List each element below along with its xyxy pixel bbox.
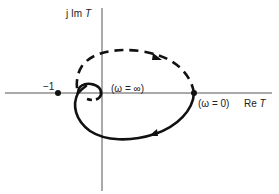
omega-zero-label: (ω = 0): [198, 99, 229, 109]
imag-label-prefix: j Im: [66, 8, 85, 19]
imag-label-var: T: [85, 8, 91, 19]
critical-point-label: −1: [43, 82, 54, 92]
omega-zero-marker: [191, 90, 197, 96]
nyquist-diagram: [0, 0, 279, 194]
dashed-loop-segment: [87, 95, 101, 100]
real-label-prefix: Re: [244, 98, 260, 109]
critical-point-marker: [55, 90, 61, 96]
real-axis-label: Re T: [244, 99, 266, 109]
solid-direction-arrow-icon: [149, 129, 158, 136]
real-label-var: T: [260, 98, 266, 109]
omega-infinity-label: (ω = ∞): [111, 84, 144, 94]
imaginary-axis-label: j Im T: [66, 9, 91, 19]
solid-curve: [75, 86, 194, 139]
